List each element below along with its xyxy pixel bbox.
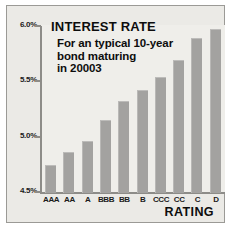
bar-bb	[118, 101, 129, 193]
x-axis-tick-label: BB	[115, 195, 133, 205]
bar-d	[210, 29, 221, 193]
y-axis-tick	[35, 80, 41, 82]
y-axis-tick-label: 5.5%	[11, 76, 37, 84]
bar-cc	[173, 60, 184, 193]
y-axis-tick	[35, 191, 41, 193]
y-axis-tick-label: 5.0%	[11, 132, 37, 140]
x-axis-tick-label: A	[79, 195, 97, 205]
bar-a	[82, 141, 93, 193]
chart-subtitle-line-3: in 20003	[57, 62, 197, 75]
y-axis-labels: 6.0%5.5%5.0%4.5%	[7, 6, 37, 224]
chart-subtitle: For an typical 10-year bond maturing in …	[57, 37, 197, 75]
chart-screenshot: 6.0%5.5%5.0%4.5% AAAAAABBBBBBCCCCCCD INT…	[0, 0, 232, 229]
x-axis-tick-label: D	[207, 195, 225, 205]
x-axis-tick-label: C	[188, 195, 206, 205]
bar-bbb	[100, 120, 111, 193]
bar-aa	[63, 152, 74, 193]
x-axis-tick-label: AA	[60, 195, 78, 205]
bar-ccc	[155, 77, 166, 193]
y-axis-tick-label: 6.0%	[11, 21, 37, 29]
y-axis-tick-label: 4.5%	[11, 187, 37, 195]
bar-aaa	[45, 165, 56, 193]
chart-subtitle-line-1: For an typical 10-year	[57, 37, 197, 50]
bar-b	[137, 90, 148, 193]
y-axis-tick	[35, 25, 41, 27]
x-axis-tick-label: AAA	[42, 195, 60, 205]
chart-subtitle-line-2: bond maturing	[57, 50, 197, 63]
x-axis-tick-label: B	[134, 195, 152, 205]
x-axis-tick-label: BBB	[97, 195, 115, 205]
y-axis-tick	[35, 136, 41, 138]
chart-panel: 6.0%5.5%5.0%4.5% AAAAAABBBBBBCCCCCCD INT…	[6, 5, 225, 223]
bar-slot	[207, 25, 225, 193]
x-axis-tick-label: CCC	[152, 195, 170, 205]
x-axis-tick-label: CC	[170, 195, 188, 205]
chart-title: INTEREST RATE	[51, 20, 156, 34]
x-axis-title: RATING	[165, 206, 214, 219]
